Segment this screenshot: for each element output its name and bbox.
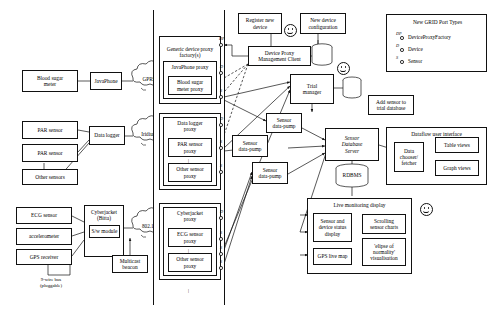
actor-smiley-live-monitoring [420, 203, 433, 216]
scrolling-sensor-charts-label: Scrolling sensor charts [370, 218, 398, 230]
ellipse-of-normality-visualisation[interactable]: 'elipse of normality' visualisation [362, 238, 406, 266]
rdbms-label: RDBMS [332, 172, 372, 178]
architecture-diagram: Blood sugar meter JavaPhone PAR sensor P… [0, 0, 495, 318]
legend-title: New GRID Port Types [390, 19, 485, 25]
scrolling-sensor-charts[interactable]: Scrolling sensor charts [362, 214, 406, 234]
table-views[interactable]: Table views [435, 137, 479, 153]
table-views-label: Table views [444, 142, 470, 148]
graph-views[interactable]: Graph views [435, 160, 479, 176]
legend-label-s: Sensor [408, 59, 422, 65]
sensor-device-status-display-label: Sensor and device status display [319, 218, 347, 236]
live-monitoring-display-title: Live monitoring display [307, 202, 412, 208]
data-chooser-fetcher-label: Data chooser/ fetcher [400, 148, 418, 166]
graph-views-label: Graph views [443, 165, 470, 171]
gps-live-map[interactable]: GPS live map [313, 248, 352, 265]
legend-label-dp: DeviceProxyFactory [408, 35, 451, 41]
legend-port-dp-icon [400, 36, 404, 40]
ellipse-of-normality-label: 'elipse of normality' visualisation [370, 243, 397, 261]
data-chooser-fetcher[interactable]: Data chooser/ fetcher [394, 142, 424, 172]
sensor-device-status-display[interactable]: Sensor and device status display [313, 213, 352, 242]
legend-tag-s: S [396, 55, 398, 60]
legend-port-s-icon [400, 60, 404, 64]
gps-live-map-label: GPS live map [318, 253, 348, 259]
legend-label-d: Device [408, 47, 423, 53]
legend-tag-d: D [396, 43, 399, 48]
legend-port-d-icon [400, 48, 404, 52]
